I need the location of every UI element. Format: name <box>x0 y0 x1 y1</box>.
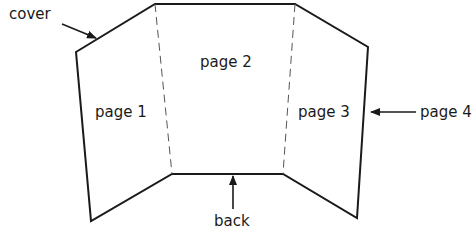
label-cover: cover <box>9 7 51 22</box>
label-back: back <box>214 214 250 229</box>
label-page3: page 3 <box>298 105 350 120</box>
fold-line-right <box>283 4 295 174</box>
label-page2: page 2 <box>200 55 252 70</box>
label-page1: page 1 <box>95 105 147 120</box>
fold-line-left <box>155 4 172 174</box>
cover-arrow <box>62 24 96 38</box>
folded-booklet-diagram <box>0 0 476 246</box>
label-page4: page 4 <box>420 105 472 120</box>
